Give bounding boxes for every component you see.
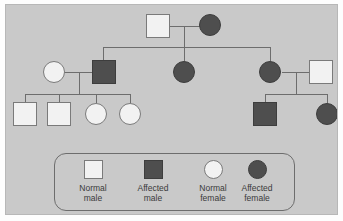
legend-item-affected-female: Affected female bbox=[227, 160, 287, 203]
individual-II-3[interactable] bbox=[173, 61, 195, 83]
legend-item-normal-male: Normal male bbox=[63, 160, 123, 203]
individual-II-1[interactable] bbox=[43, 61, 65, 83]
individual-III-5[interactable] bbox=[253, 102, 277, 126]
legend-label-normal-male: Normal male bbox=[63, 183, 123, 203]
individual-I-2[interactable] bbox=[199, 14, 221, 36]
sibship-line-1 bbox=[103, 47, 270, 48]
legend-item-affected-male: Affected male bbox=[123, 160, 183, 203]
sibship-line-3 bbox=[265, 94, 327, 95]
descent-line-1 bbox=[184, 26, 185, 47]
legend-label-affected-male: Affected male bbox=[123, 183, 183, 203]
pedigree-canvas: Normal male Affected male Normal female … bbox=[5, 4, 338, 215]
normal-male-icon bbox=[84, 160, 103, 179]
affected-male-icon bbox=[144, 160, 163, 179]
sibship-stub-II-4 bbox=[270, 47, 271, 61]
individual-III-3[interactable] bbox=[85, 103, 107, 125]
individual-II-4[interactable] bbox=[259, 61, 281, 83]
sibship-stub-III-4 bbox=[130, 94, 131, 103]
individual-III-4[interactable] bbox=[119, 103, 141, 125]
descent-line-2 bbox=[79, 72, 80, 94]
individual-I-1[interactable] bbox=[146, 14, 170, 38]
individual-II-2[interactable] bbox=[92, 60, 116, 84]
normal-female-icon bbox=[204, 160, 223, 179]
legend-label-affected-female: Affected female bbox=[227, 183, 287, 203]
affected-female-icon bbox=[248, 160, 267, 179]
sibship-stub-III-3 bbox=[96, 94, 97, 103]
descent-line-3 bbox=[296, 72, 297, 94]
sibship-line-2 bbox=[25, 94, 130, 95]
sibship-stub-II-3 bbox=[184, 47, 185, 61]
sibship-stub-III-6 bbox=[327, 94, 328, 103]
pedigree-figure: Normal male Affected male Normal female … bbox=[0, 0, 343, 221]
legend-box: Normal male Affected male Normal female … bbox=[54, 153, 295, 211]
individual-III-6[interactable] bbox=[316, 103, 338, 125]
individual-II-5[interactable] bbox=[309, 60, 333, 84]
sibship-stub-II-2 bbox=[103, 47, 104, 60]
individual-III-2[interactable] bbox=[47, 102, 71, 126]
individual-III-1[interactable] bbox=[13, 102, 37, 126]
